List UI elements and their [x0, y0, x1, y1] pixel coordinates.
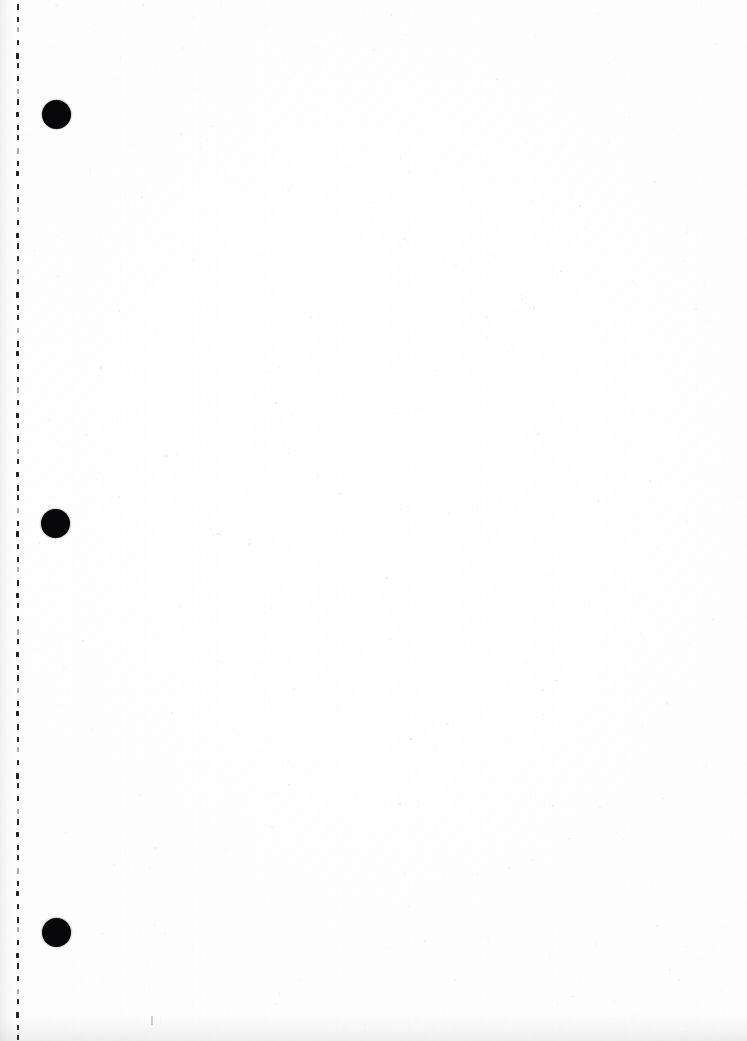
perforation-tick	[17, 819, 19, 825]
dust-speck	[55, 4, 58, 6]
perforation-tick	[17, 197, 19, 203]
perforation-tick	[17, 688, 19, 693]
perforation-tick	[16, 652, 19, 657]
perforation-tick	[17, 963, 19, 969]
perforation-tick	[17, 904, 19, 909]
dust-speck	[365, 1024, 366, 1026]
perforation-tick	[17, 387, 19, 393]
perforation-tick	[17, 783, 19, 788]
perforation-tick	[16, 891, 19, 896]
perforation-tick	[16, 351, 19, 356]
perforation-tick	[17, 27, 19, 32]
perforation-tick	[16, 233, 19, 238]
perforation-tick	[17, 315, 19, 320]
dust-speck	[82, 640, 84, 642]
perforation-tick	[17, 89, 19, 94]
punch-dot-3	[42, 918, 71, 947]
dust-speck	[142, 4, 144, 6]
perforation-tick	[17, 459, 19, 464]
perforation-tick	[17, 328, 19, 333]
perforation-tick	[17, 76, 19, 81]
dust-speck	[57, 276, 59, 277]
perforation-tick	[17, 724, 19, 730]
perforation-tick	[17, 629, 19, 635]
perforation-tick	[16, 413, 19, 418]
perforation-tick	[17, 760, 19, 765]
perforation-tick	[16, 112, 19, 117]
dust-speck	[477, 1014, 478, 1015]
dust-speck	[65, 832, 66, 833]
blank-content-area	[90, 20, 727, 1011]
perforation-tick	[17, 495, 19, 500]
perforation-tick	[17, 449, 19, 454]
perforation-tick	[17, 243, 19, 249]
dust-speck	[33, 550, 34, 552]
perforation-tick	[17, 999, 19, 1004]
perforation-tick	[17, 161, 19, 166]
perforation-tick	[17, 989, 19, 994]
dust-speck	[77, 726, 79, 728]
punch-dot-2	[41, 509, 70, 538]
perforation-tick	[17, 220, 19, 225]
perforation-tick	[17, 796, 19, 801]
dust-speck	[38, 648, 39, 650]
perforation-tick	[17, 63, 19, 68]
dust-speck	[160, 1021, 161, 1023]
dust-speck	[62, 239, 65, 240]
left-gutter-shadow	[0, 0, 14, 1041]
perforation-tick	[17, 341, 19, 347]
perforation-tick	[17, 99, 19, 105]
perforation-tick	[17, 148, 19, 154]
perforation-tick	[17, 269, 19, 274]
perforation-tick	[16, 531, 19, 537]
dust-speck	[610, 1018, 612, 1019]
perforation-tick	[17, 1025, 19, 1030]
perforation-tick	[16, 472, 19, 477]
perforation-tick	[17, 400, 19, 405]
perforation-tick	[17, 256, 19, 261]
perforation-tick	[17, 17, 19, 22]
perforation-tick	[16, 832, 19, 837]
perforation-tick	[16, 1012, 19, 1018]
perforation-tick	[17, 377, 19, 382]
dust-speck	[42, 55, 44, 56]
dust-speck	[220, 5, 222, 6]
perforation-tick	[17, 305, 19, 310]
perforation-tick	[16, 171, 19, 176]
perforation-tick	[17, 1035, 19, 1040]
perforation-tick	[17, 855, 19, 860]
perforation-tick	[16, 953, 19, 958]
perforation-tick	[17, 737, 19, 742]
perforation-tick	[16, 292, 19, 298]
perforation-tick	[17, 675, 19, 681]
dust-speck	[48, 419, 50, 421]
perforation-tick	[17, 868, 19, 874]
scanned-page	[0, 0, 747, 1041]
perforation-tick	[17, 976, 19, 981]
dust-speck	[193, 17, 195, 19]
perforation-tick	[17, 184, 19, 189]
perforation-tick	[17, 747, 19, 752]
perforation-tick	[17, 436, 19, 442]
perforation-tick	[17, 364, 19, 369]
dust-speck	[85, 434, 88, 436]
perforation-tick	[17, 485, 19, 491]
bottom-edge-shadow	[0, 1015, 747, 1041]
dust-speck	[597, 13, 599, 14]
perforation-tick	[17, 845, 19, 850]
stray-pencil-mark	[151, 1016, 153, 1025]
perforation-tick	[17, 639, 19, 644]
punch-dot-1	[42, 100, 71, 129]
perforation-tick	[17, 508, 19, 513]
dust-speck	[61, 447, 63, 448]
dust-speck	[60, 643, 61, 645]
dust-speck	[38, 542, 40, 544]
perforation-tick	[17, 567, 19, 572]
perforation-tick	[16, 593, 19, 598]
perforation-tick	[17, 616, 19, 621]
perforation-tick	[17, 580, 19, 586]
perforation-tick	[17, 135, 19, 140]
perforation-tick	[17, 881, 19, 886]
perforation-tick	[17, 40, 19, 45]
perforation-tick	[17, 4, 19, 10]
